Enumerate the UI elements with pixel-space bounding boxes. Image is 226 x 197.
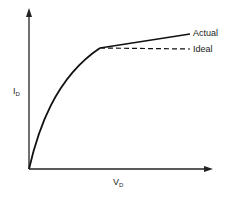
saturation-curve: [29, 48, 100, 169]
x-axis-arrow-icon: [204, 166, 213, 172]
actual-line: [100, 34, 190, 48]
ideal-label: Ideal: [193, 45, 213, 54]
ideal-line: [100, 48, 190, 49]
y-axis-arrow-icon: [26, 8, 32, 17]
x-axis-label: VD: [113, 178, 123, 188]
actual-label: Actual: [193, 29, 218, 38]
iv-characteristic-diagram: Actual Ideal ID VD: [0, 0, 226, 197]
y-axis-label: ID: [13, 87, 20, 97]
